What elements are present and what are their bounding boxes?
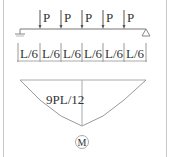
segment-label-6: L/6 (126, 46, 145, 61)
moment-tag: M (76, 136, 89, 149)
segment-label-2: L/6 (42, 46, 61, 61)
load-arrow-3 (81, 10, 84, 29)
load-label-2: P (64, 10, 71, 25)
beam-diagram: P P P P P L/6 L/6 L/6 L/6 L/6 L/6 9PL/12… (0, 0, 172, 157)
moment-tag-label: M (78, 137, 87, 148)
segment-label-1: L/6 (20, 46, 39, 61)
load-label-1: P (43, 10, 50, 25)
segment-label-4: L/6 (84, 46, 103, 61)
segment-label-5: L/6 (105, 46, 124, 61)
load-label-3: P (85, 10, 92, 25)
load-arrow-1 (39, 10, 42, 29)
segment-label-3: L/6 (63, 46, 82, 61)
load-arrow-5 (123, 10, 126, 29)
load-label-5: P (127, 10, 134, 25)
load-arrow-4 (102, 10, 105, 29)
max-moment-label: 9PL/12 (46, 92, 84, 107)
load-label-4: P (106, 10, 113, 25)
load-arrow-2 (60, 10, 63, 29)
right-support-icon (142, 29, 150, 36)
left-support-icon (15, 29, 25, 36)
